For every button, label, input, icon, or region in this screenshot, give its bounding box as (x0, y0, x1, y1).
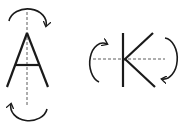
bottom-rotation-arrow-icon (11, 104, 47, 121)
letter-k-figure (90, 33, 178, 87)
letter-a-glyph (7, 33, 48, 87)
top-rotation-arrow-icon (9, 9, 46, 26)
left-rotation-arrow-icon (90, 43, 107, 82)
right-rotation-arrow-icon (162, 38, 177, 79)
letter-a-figure (7, 9, 48, 121)
letter-k-glyph (123, 33, 155, 87)
symmetry-diagram (0, 0, 179, 135)
